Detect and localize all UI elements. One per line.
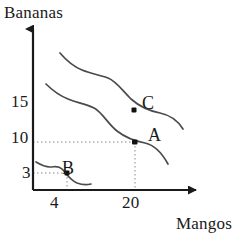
y-axis-title: Bananas: [4, 4, 63, 21]
point-label-C: C: [142, 94, 154, 112]
y-tick-label-15: 15: [11, 93, 28, 110]
point-label-A: A: [148, 126, 161, 144]
axes: [33, 29, 196, 190]
guide-lines: [33, 142, 135, 190]
x-tick-label-20: 20: [122, 194, 139, 211]
indifference-curve-chart: Bananas Mangos 15 10 3 4 20 C A B: [0, 0, 243, 240]
indifference-curves: [36, 53, 183, 185]
upper-indifference-curve: [60, 53, 183, 129]
y-tick-label-3: 3: [22, 164, 31, 181]
y-tick-label-10: 10: [11, 129, 28, 146]
x-axis-title: Mangos: [176, 215, 232, 232]
point-marker-A: [132, 140, 138, 145]
point-marker-C: [132, 108, 137, 113]
x-tick-label-4: 4: [50, 194, 59, 211]
point-label-B: B: [62, 159, 74, 177]
